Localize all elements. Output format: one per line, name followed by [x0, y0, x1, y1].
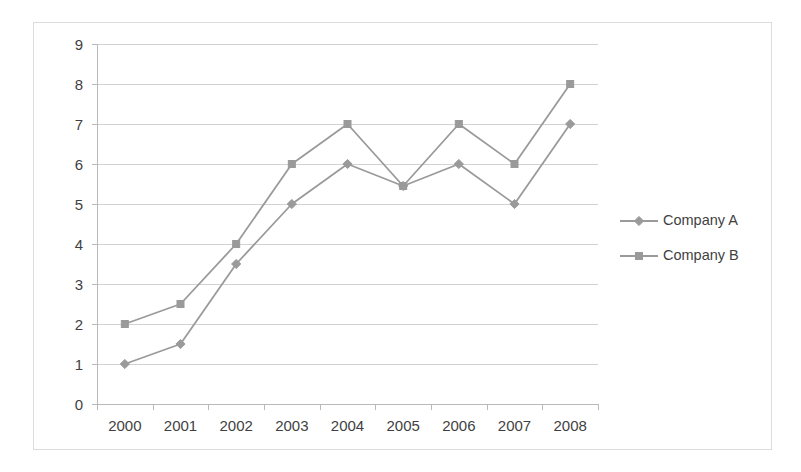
x-axis-label-2006: 2006	[442, 417, 475, 434]
x-axis-label-2001: 2001	[164, 417, 197, 434]
x-axis-tick-labels: 200020012002200320042005200620072008	[108, 417, 587, 434]
datapoint-company-b-2007-square-marker	[511, 161, 518, 168]
datapoint-company-b-2003-square-marker	[288, 161, 295, 168]
y-axis-label-8: 8	[75, 76, 83, 93]
legend-item-company-b[interactable]: Company B	[620, 247, 739, 263]
y-axis-label-4: 4	[75, 236, 83, 253]
x-axis-label-2002: 2002	[219, 417, 252, 434]
y-axis-label-0: 0	[75, 396, 83, 413]
datapoint-company-b-2001-square-marker	[177, 301, 184, 308]
x-axis-label-2004: 2004	[331, 417, 364, 434]
legend-label-company-a: Company A	[663, 212, 738, 228]
chart-plot-area: 0123456789 20002001200220032004200520062…	[0, 0, 801, 472]
y-axis-label-7: 7	[75, 116, 83, 133]
y-axis-label-6: 6	[75, 156, 83, 173]
y-axis-label-9: 9	[75, 36, 83, 53]
y-axis-label-1: 1	[75, 356, 83, 373]
legend-item-company-a[interactable]: Company A	[620, 212, 738, 228]
y-axis-label-3: 3	[75, 276, 83, 293]
y-axis-label-5: 5	[75, 196, 83, 213]
axes	[92, 44, 599, 410]
datapoint-company-b-2002-square-marker	[233, 241, 240, 248]
legend-company-b-square-marker	[636, 253, 643, 260]
x-axis-label-2003: 2003	[275, 417, 308, 434]
legend-label-company-b: Company B	[663, 247, 739, 263]
datapoint-company-b-2008-square-marker	[567, 81, 574, 88]
gridlines	[97, 45, 598, 405]
y-axis-tick-labels: 0123456789	[75, 36, 83, 413]
datapoint-company-b-2000-square-marker	[121, 321, 128, 328]
x-axis-label-2008: 2008	[553, 417, 586, 434]
y-axis-label-2: 2	[75, 316, 83, 333]
line-chart: 0123456789 20002001200220032004200520062…	[0, 0, 801, 472]
datapoint-company-b-2004-square-marker	[344, 121, 351, 128]
datapoint-company-b-2005-square-marker	[400, 183, 407, 190]
datapoint-company-b-2006-square-marker	[455, 121, 462, 128]
x-axis-label-2000: 2000	[108, 417, 141, 434]
legend-company-a-diamond-marker	[634, 216, 643, 225]
chart-legend: Company ACompany B	[620, 212, 739, 263]
x-axis-label-2005: 2005	[386, 417, 419, 434]
datapoint-company-a-2000-diamond-marker	[120, 359, 129, 368]
x-axis-label-2007: 2007	[498, 417, 531, 434]
data-series	[120, 81, 575, 369]
